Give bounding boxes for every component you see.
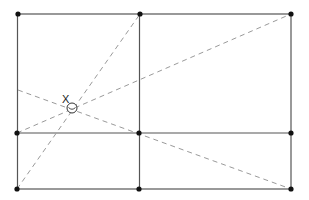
vertex-mid-right [288,130,293,135]
outer-rectangle [18,14,292,189]
dashed-line-midleft-to-topright [17,14,291,133]
vertex-bottom-left [14,186,19,191]
diagram-svg: X [0,0,309,200]
vertex-mid-left [14,130,19,135]
vertex-top-right [288,11,293,16]
vertex-top-left [15,11,20,16]
vertex-mid-center [136,130,141,135]
vertex-bottom-right [288,186,293,191]
grid-diagram: X [0,0,309,200]
point-label-x: X [62,93,70,105]
vertex-bottom-middle [136,186,141,191]
dashed-line-left-to-bottomright [18,90,291,189]
dashed-line-bottomleft-to-topmiddle [17,14,140,189]
vertex-top-middle [137,11,142,16]
